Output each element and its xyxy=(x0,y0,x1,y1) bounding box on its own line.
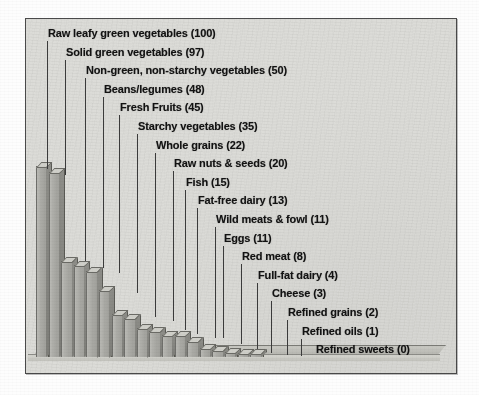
bar-10 xyxy=(162,336,173,357)
bar-0 xyxy=(36,167,47,357)
leader-line-10 xyxy=(215,227,216,338)
bar-label-17: Refined sweets (0) xyxy=(316,343,410,355)
leader-line-3 xyxy=(103,97,104,268)
leader-line-11 xyxy=(223,246,224,339)
bar-label-2: Non-green, non-starchy vegetables (50) xyxy=(86,64,287,76)
leader-line-0 xyxy=(47,41,48,169)
bar-4 xyxy=(86,272,97,358)
bar-17 xyxy=(250,354,261,357)
bar-label-0: Raw leafy green vegetables (100) xyxy=(48,27,216,39)
bar-label-14: Cheese (3) xyxy=(272,287,326,299)
leader-line-15 xyxy=(287,320,288,355)
bar-3 xyxy=(74,266,85,357)
bar-label-3: Beans/legumes (48) xyxy=(104,83,205,95)
bar-label-4: Fresh Fruits (45) xyxy=(120,101,204,113)
bar-label-12: Red meat (8) xyxy=(242,250,306,262)
bar-5 xyxy=(99,291,110,358)
bar-11 xyxy=(175,336,186,357)
leader-line-12 xyxy=(241,264,242,344)
leader-line-6 xyxy=(155,153,156,318)
leader-line-8 xyxy=(185,190,186,331)
bar-8 xyxy=(137,329,148,358)
leader-line-9 xyxy=(197,208,198,334)
bar-9 xyxy=(149,332,160,357)
bar-15 xyxy=(225,353,236,357)
bar-label-9: Fat-free dairy (13) xyxy=(198,194,287,206)
scanned-page: Raw leafy green vegetables (100)Solid gr… xyxy=(0,0,479,395)
leader-line-14 xyxy=(271,301,272,353)
leader-line-2 xyxy=(85,78,86,264)
bar-label-16: Refined oils (1) xyxy=(302,325,378,337)
leader-line-13 xyxy=(257,283,258,352)
bar-7 xyxy=(124,319,135,357)
bar-label-15: Refined grains (2) xyxy=(288,306,378,318)
chart-frame: Raw leafy green vegetables (100)Solid gr… xyxy=(25,18,457,374)
bar-label-6: Whole grains (22) xyxy=(156,139,245,151)
bar-2 xyxy=(61,262,72,357)
leader-line-7 xyxy=(173,171,174,321)
leader-line-16 xyxy=(301,339,302,356)
bar-14 xyxy=(212,351,223,357)
bar-label-11: Eggs (11) xyxy=(224,232,272,244)
bar-13 xyxy=(200,349,211,357)
bar-6 xyxy=(112,315,123,357)
bar-label-8: Fish (15) xyxy=(186,176,230,188)
bar-1 xyxy=(49,173,60,357)
chart-plot-area: Raw leafy green vegetables (100)Solid gr… xyxy=(26,19,456,373)
leader-line-5 xyxy=(137,134,138,293)
leader-line-1 xyxy=(65,60,66,175)
bar-label-1: Solid green vegetables (97) xyxy=(66,46,204,58)
bar-label-7: Raw nuts & seeds (20) xyxy=(174,157,288,169)
bar-label-13: Full-fat dairy (4) xyxy=(258,269,338,281)
bar-16 xyxy=(238,354,249,357)
leader-line-4 xyxy=(119,115,120,273)
bar-label-10: Wild meats & fowl (11) xyxy=(216,213,329,225)
bar-label-5: Starchy vegetables (35) xyxy=(138,120,257,132)
bar-12 xyxy=(187,342,198,357)
